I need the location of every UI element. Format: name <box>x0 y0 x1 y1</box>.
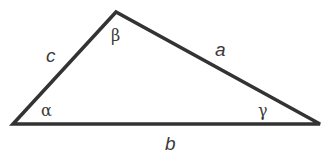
triangle-diagram: c a b β α γ <box>0 0 322 154</box>
angle-label-beta: β <box>111 26 120 45</box>
side-label-a: a <box>215 39 226 60</box>
side-label-c: c <box>46 45 56 66</box>
angle-label-alpha: α <box>41 101 52 120</box>
angle-label-gamma: γ <box>258 101 268 120</box>
triangle-outline <box>13 12 320 124</box>
side-label-b: b <box>165 133 176 154</box>
